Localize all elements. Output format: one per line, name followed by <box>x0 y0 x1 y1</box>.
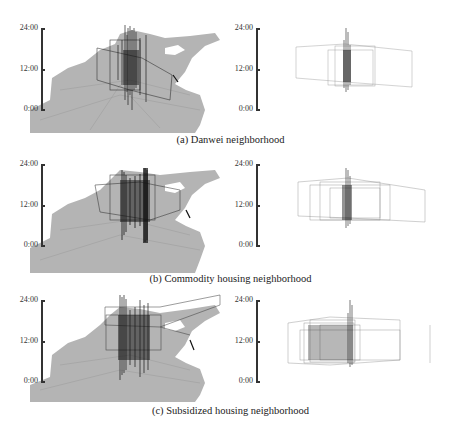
trajectory-plot <box>230 0 461 140</box>
time-axis: 24:00 12:00 0:00 <box>15 164 45 246</box>
trajectory-plot <box>230 285 461 403</box>
panel-b-left: 24:00 12:00 0:00 <box>0 140 230 275</box>
time-axis: 24:00 12:00 0:00 <box>230 164 260 246</box>
panel-c-right: 24:00 12:00 0:00 <box>230 285 461 403</box>
trajectory-plot <box>230 140 461 275</box>
caption-b: (b) Commodity housing neighborhood <box>0 273 461 284</box>
time-axis: 24:00 12:00 0:00 <box>230 300 260 382</box>
panel-c-left: 24:00 12:00 0:00 <box>0 285 230 403</box>
panel-a-right: 24:00 12:00 0:00 <box>230 0 461 140</box>
panel-b-right: 24:00 12:00 0:00 <box>230 140 461 275</box>
panel-a-left: 24:00 12:00 0:00 <box>0 0 230 140</box>
caption-c: (c) Subsidized housing neighborhood <box>0 405 461 416</box>
time-axis: 24:00 12:00 0:00 <box>230 28 260 110</box>
time-axis: 24:00 12:00 0:00 <box>15 28 45 110</box>
time-axis: 24:00 12:00 0:00 <box>15 300 45 382</box>
